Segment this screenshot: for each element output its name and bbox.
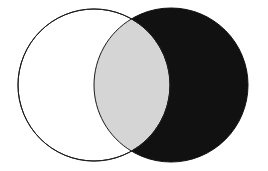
venn-diagram-svg [0, 0, 268, 171]
venn-diagram-canvas [0, 0, 268, 171]
